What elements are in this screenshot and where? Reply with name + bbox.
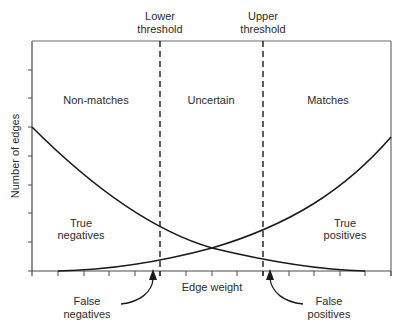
edge-weight-threshold-diagram: Lower threshold Upper threshold Non-matc… [0, 0, 403, 332]
false-negatives-label-line2: negatives [63, 308, 111, 320]
false-negatives-callout: False negatives [63, 269, 157, 320]
curved-arrow-icon [270, 279, 303, 304]
non-match-curve [32, 127, 365, 271]
curved-arrow-icon [121, 279, 153, 304]
y-axis-label: Number of edges [9, 113, 21, 198]
region-uncertain: Uncertain [187, 94, 234, 106]
lower-threshold-label-line1: Lower [145, 10, 175, 22]
upper-threshold-label-line1: Upper [248, 10, 278, 22]
region-matches: Matches [307, 94, 349, 106]
true-negatives-label-line2: negatives [57, 229, 105, 241]
false-positives-callout: False positives [266, 269, 351, 320]
true-positives-label-line1: True [334, 217, 356, 229]
true-negatives-label-line1: True [70, 217, 92, 229]
x-axis [28, 271, 391, 276]
y-axis [28, 41, 32, 276]
region-non-matches: Non-matches [63, 94, 129, 106]
true-positives-label-line2: positives [324, 229, 367, 241]
false-positives-label-line2: positives [308, 308, 351, 320]
false-positives-label-line1: False [316, 295, 343, 307]
upper-threshold-label-line2: threshold [240, 23, 285, 35]
lower-threshold-label-line2: threshold [137, 23, 182, 35]
false-negatives-label-line1: False [74, 295, 101, 307]
x-axis-label: Edge weight [182, 281, 243, 293]
